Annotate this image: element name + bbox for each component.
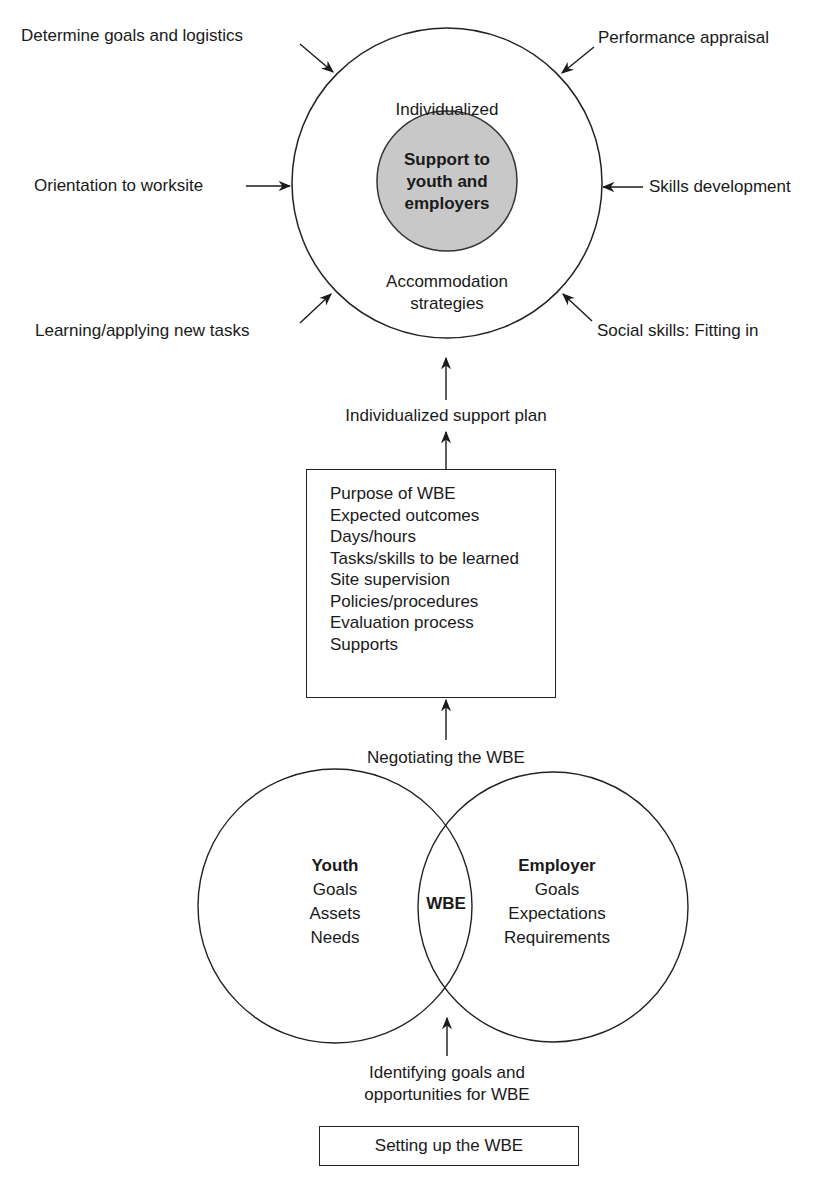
venn-youth-title: Youth (285, 856, 385, 876)
core-label-line-3: employers (367, 194, 527, 214)
venn-youth-item: Needs (285, 928, 385, 948)
setup-box: Setting up the WBE (319, 1126, 579, 1166)
setup-box-label: Setting up the WBE (320, 1136, 578, 1156)
arrow-top-right (562, 47, 594, 73)
arrow-bottom-left (300, 294, 331, 323)
agreement-item: Policies/procedures (330, 591, 519, 613)
outer-ring-top-label: Individualized (367, 100, 527, 120)
outer-ring-bottom-label-1: Accommodation (357, 272, 537, 292)
support-plan-label: Individualized support plan (296, 406, 596, 426)
venn-employer-item: Goals (492, 880, 622, 900)
agreement-item: Days/hours (330, 526, 519, 548)
agreement-box: Purpose of WBE Expected outcomes Days/ho… (306, 469, 556, 698)
venn-youth-item: Assets (285, 904, 385, 924)
negotiating-label: Negotiating the WBE (296, 748, 596, 768)
agreement-item: Expected outcomes (330, 505, 519, 527)
agreement-item: Purpose of WBE (330, 483, 519, 505)
input-social-skills: Social skills: Fitting in (597, 321, 759, 341)
core-label-line-2: youth and (367, 172, 527, 192)
input-skills-development: Skills development (649, 177, 791, 197)
core-label-line-1: Support to (367, 150, 527, 170)
arrow-top-left (300, 44, 333, 72)
outer-ring-bottom-label-2: strategies (357, 294, 537, 314)
venn-employer-item: Expectations (492, 904, 622, 924)
venn-employer-item: Requirements (482, 928, 632, 948)
arrow-bottom-right (563, 294, 592, 321)
venn-employer-title: Employer (492, 856, 622, 876)
venn-youth-item: Goals (285, 880, 385, 900)
agreement-item: Site supervision (330, 569, 519, 591)
input-orientation: Orientation to worksite (34, 176, 203, 196)
identifying-label-1: Identifying goals and (297, 1063, 597, 1083)
identifying-label-2: opportunities for WBE (297, 1085, 597, 1105)
input-learning-tasks: Learning/applying new tasks (35, 321, 250, 341)
agreement-item: Supports (330, 634, 519, 656)
agreement-item: Evaluation process (330, 612, 519, 634)
venn-overlap-wbe: WBE (414, 894, 478, 914)
input-determine-goals: Determine goals and logistics (21, 26, 243, 46)
input-performance-appraisal: Performance appraisal (598, 28, 769, 48)
agreement-item: Tasks/skills to be learned (330, 548, 519, 570)
